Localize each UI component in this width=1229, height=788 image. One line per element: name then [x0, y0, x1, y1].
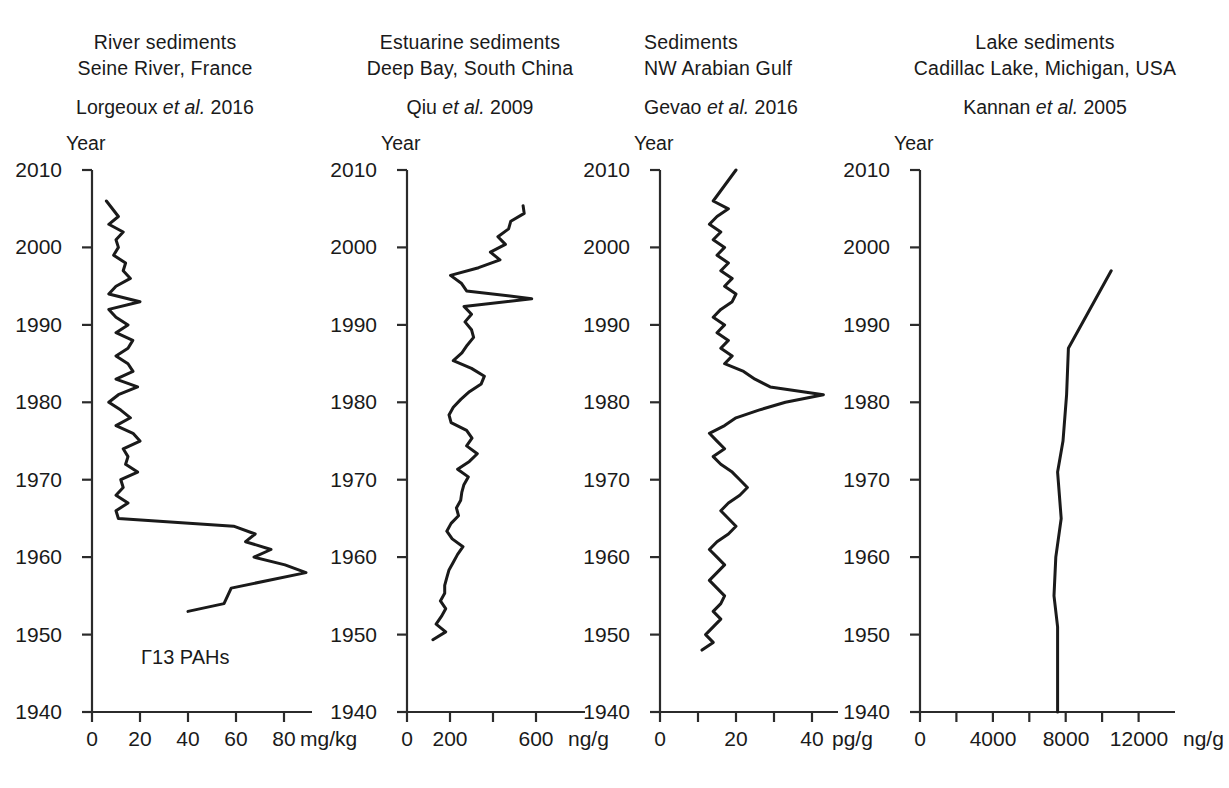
- x-unit-label-arabiangulf: pg/g: [832, 727, 873, 751]
- xtick-label-600: 600: [508, 727, 564, 751]
- series-line-deepbay: [433, 206, 532, 640]
- series-annotation-pah: Γ13 PAHs: [141, 646, 229, 669]
- xtick-label-40: 40: [168, 727, 208, 751]
- xtick-label-0: 0: [72, 727, 112, 751]
- xtick-label-0: 0: [900, 727, 940, 751]
- xtick-label-80: 80: [264, 727, 304, 751]
- xtick-label-200: 200: [422, 727, 478, 751]
- plot-cadillac: [875, 0, 1229, 788]
- x-unit-label-deepbay: ng/g: [568, 727, 609, 751]
- plot-seine: [0, 0, 330, 788]
- panel-river-sediments-seine: River sediments Seine River, France Lorg…: [0, 0, 330, 788]
- xtick-label-40: 40: [792, 727, 832, 751]
- panel-lake-sediments-cadillac: Lake sediments Cadillac Lake, Michigan, …: [875, 0, 1229, 788]
- xtick-label-4000: 4000: [957, 727, 1029, 751]
- x-unit-label-cadillac: ng/g: [1183, 727, 1224, 751]
- series-line-arabiangulf: [702, 170, 823, 650]
- figure-root: River sediments Seine River, France Lorg…: [0, 0, 1229, 788]
- panel-estuarine-sediments-deep-bay: Estuarine sediments Deep Bay, South Chin…: [330, 0, 610, 788]
- xtick-label-0: 0: [640, 727, 680, 751]
- series-line-seine: [106, 201, 306, 611]
- plot-deepbay: [330, 0, 610, 788]
- xtick-label-20: 20: [716, 727, 756, 751]
- xtick-label-8000: 8000: [1030, 727, 1102, 751]
- series-line-cadillac: [1054, 271, 1111, 712]
- xtick-label-20: 20: [120, 727, 160, 751]
- xtick-label-12000: 12000: [1097, 727, 1181, 751]
- xtick-label-0: 0: [387, 727, 427, 751]
- xtick-label-60: 60: [216, 727, 256, 751]
